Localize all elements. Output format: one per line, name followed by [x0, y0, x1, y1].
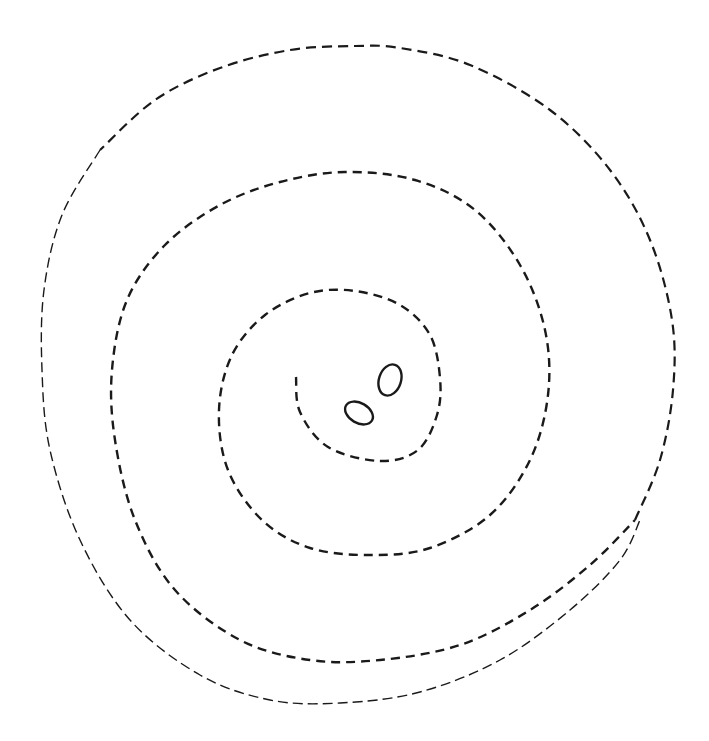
lower-oval: [341, 397, 377, 429]
dashed-spiral: [41, 46, 674, 704]
diagram-canvas: [0, 0, 709, 741]
upper-oval: [375, 361, 406, 398]
spiral-outermost-segment: [41, 150, 640, 704]
center-ovals: [341, 361, 405, 429]
spiral-outer-segment: [100, 46, 675, 520]
